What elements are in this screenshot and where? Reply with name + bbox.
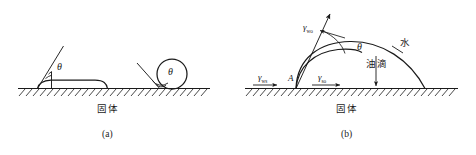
gamma-wo-label: γwo <box>303 23 313 34</box>
contact-point-label: A <box>288 74 294 83</box>
panel-a-substrate-label: 固体 <box>97 105 118 115</box>
panel-b-hatching <box>246 89 455 96</box>
flat-droplet-angle-arc2 <box>46 75 52 78</box>
panel-a-caption: (a) <box>102 130 113 140</box>
gamma-ws-label: γws <box>258 73 267 84</box>
figure-root: θ θ 固体 (a) γwo γws γso A θ 油滴 水 固体 (b) <box>0 0 476 155</box>
panel-b-caption: (b) <box>341 130 352 140</box>
panel-a-group <box>18 46 210 96</box>
panel-a-hatching <box>19 89 207 96</box>
flat-droplet <box>38 80 108 88</box>
panel-a-flat-angle-label: θ <box>57 62 62 72</box>
water-label: 水 <box>400 39 411 49</box>
panel-b-substrate-label: 固体 <box>336 105 357 115</box>
droplet-inner-arc <box>296 49 362 88</box>
gamma-wo-subscript: wo <box>307 28 313 34</box>
oil-drop-label: 油滴 <box>366 60 387 70</box>
gamma-so-subscript: so <box>322 78 327 84</box>
panel-b-group <box>245 14 458 96</box>
gamma-so-label: γso <box>318 73 326 84</box>
panel-a-round-angle-label: θ <box>168 67 173 77</box>
figure-canvas <box>0 0 476 155</box>
panel-b-angle-label: θ <box>357 42 362 52</box>
gamma-ws-subscript: ws <box>262 78 268 84</box>
